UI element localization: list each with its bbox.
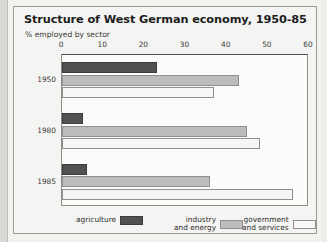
legend-label-government: government and services: [242, 216, 289, 232]
x-tick-label-20: 20: [139, 40, 148, 49]
legend-swatch-industry: [220, 220, 243, 229]
bar-1950-government: [62, 87, 214, 98]
bar-1980-agriculture: [62, 113, 83, 124]
bar-1985-agriculture: [62, 164, 87, 175]
x-tick-label-40: 40: [221, 40, 230, 49]
x-tick-label-10: 10: [97, 40, 106, 49]
legend-item-government: government and services: [242, 216, 316, 232]
y-axis-label-1985: 1985: [20, 176, 56, 185]
legend-label-industry: industry and energy: [174, 216, 216, 232]
page-left-margin: [0, 0, 8, 242]
y-axis-label-1980: 1980: [20, 126, 56, 135]
legend-swatch-agriculture: [120, 216, 143, 225]
bar-1950-agriculture: [62, 62, 157, 73]
page-right-margin: [321, 0, 327, 242]
legend-label-agriculture: agriculture: [76, 216, 116, 224]
bar-1985-government: [62, 189, 293, 200]
legend-item-agriculture: agriculture: [76, 216, 143, 225]
legend-item-industry: industry and energy: [174, 216, 243, 232]
chart-legend: agricultureindustry and energygovernment…: [14, 213, 318, 233]
x-tick-label-50: 50: [262, 40, 271, 49]
bar-1980-government: [62, 138, 260, 149]
bar-1950-industry: [62, 75, 239, 86]
x-tick-label-30: 30: [180, 40, 189, 49]
legend-swatch-government: [293, 220, 316, 229]
y-axis-label-1950: 1950: [20, 75, 56, 84]
chart-card: Structure of West German economy, 1950-8…: [13, 6, 317, 234]
bar-1985-industry: [62, 176, 210, 187]
axis-caption: % employed by sector: [25, 30, 110, 39]
chart-title: Structure of West German economy, 1950-8…: [24, 13, 307, 26]
x-tick-label-60: 60: [303, 40, 312, 49]
bar-1980-industry: [62, 126, 247, 137]
chart-figure: Structure of West German economy, 1950-8…: [0, 0, 327, 242]
plot-area: [61, 54, 308, 206]
x-tick-label-0: 0: [59, 40, 64, 49]
